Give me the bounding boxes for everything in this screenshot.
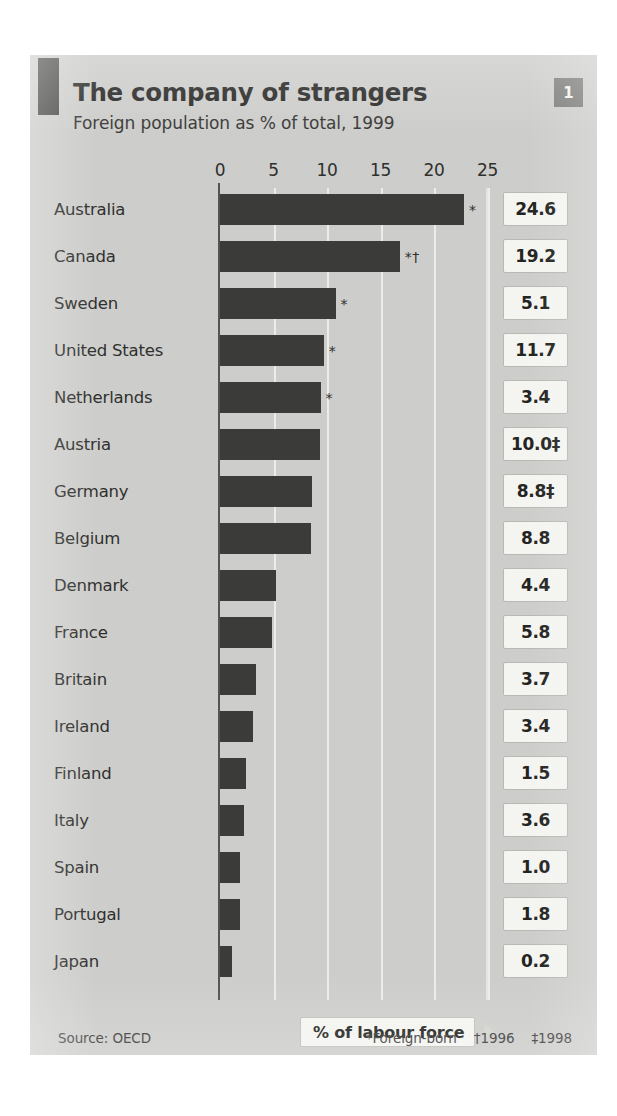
x-tick-label: 15 <box>370 160 391 180</box>
value-box: 5.8 <box>503 615 568 649</box>
category-label: Portugal <box>54 891 212 938</box>
value-box: 8.8 <box>503 521 568 555</box>
category-label: Australia <box>54 186 212 233</box>
category-label: Austria <box>54 421 212 468</box>
bar <box>220 664 256 695</box>
bar-row: Denmark4.4 <box>30 562 597 609</box>
category-label: Belgium <box>54 515 212 562</box>
footnote: †1996 <box>474 1030 515 1046</box>
bar-row: Netherlands*3.4 <box>30 374 597 421</box>
x-axis-tick-labels: 0510152025 <box>30 160 597 186</box>
bar-row: Ireland3.4 <box>30 703 597 750</box>
chart-subtitle: Foreign population as % of total, 1999 <box>73 113 394 133</box>
category-label: Canada <box>54 233 212 280</box>
bar-footnote-marker: * <box>469 186 477 233</box>
x-tick-label: 20 <box>423 160 444 180</box>
bar <box>220 758 246 789</box>
bar <box>220 899 240 930</box>
x-tick-label: 5 <box>268 160 279 180</box>
x-tick-label: 0 <box>215 160 226 180</box>
bar-row: Britain3.7 <box>30 656 597 703</box>
bar <box>220 476 312 507</box>
source-note: Source: OECD <box>58 1030 151 1046</box>
category-label: Japan <box>54 938 212 985</box>
bar-row: Finland1.5 <box>30 750 597 797</box>
category-label: Finland <box>54 750 212 797</box>
category-label: Britain <box>54 656 212 703</box>
bar <box>220 617 272 648</box>
category-label: Netherlands <box>54 374 212 421</box>
bar <box>220 711 253 742</box>
bar <box>220 194 464 225</box>
value-box: 5.1 <box>503 286 568 320</box>
value-box: 3.4 <box>503 380 568 414</box>
value-box: 1.5 <box>503 756 568 790</box>
value-box: 24.6 <box>503 192 568 226</box>
bar-footnote-marker: * <box>341 280 349 327</box>
bar-row: Germany8.8‡ <box>30 468 597 515</box>
footnotes: *Foreign-born†1996‡1998 <box>366 1030 572 1046</box>
category-label: Ireland <box>54 703 212 750</box>
bar <box>220 805 244 836</box>
x-tick-label: 10 <box>316 160 337 180</box>
bar <box>220 382 321 413</box>
category-label: Denmark <box>54 562 212 609</box>
value-box: 8.8‡ <box>503 474 568 508</box>
value-box: 1.0 <box>503 850 568 884</box>
bar <box>220 288 336 319</box>
category-label: United States <box>54 327 212 374</box>
footnote: ‡1998 <box>531 1030 572 1046</box>
bar-row: Australia*24.6 <box>30 186 597 233</box>
value-box: 1.8 <box>503 897 568 931</box>
value-box: 3.4 <box>503 709 568 743</box>
value-box: 4.4 <box>503 568 568 602</box>
value-box: 11.7 <box>503 333 568 367</box>
bar <box>220 523 311 554</box>
bar-row: Sweden*5.1 <box>30 280 597 327</box>
category-label: Italy <box>54 797 212 844</box>
chart-title: The company of strangers <box>73 78 427 107</box>
bar-row: Portugal1.8 <box>30 891 597 938</box>
bar-row: Spain1.0 <box>30 844 597 891</box>
plot-area: 0510152025 Australia*24.6Canada*†19.2Swe… <box>30 160 597 1015</box>
figure-number-badge: 1 <box>554 78 583 107</box>
x-tick-label: 25 <box>477 160 498 180</box>
value-box: 10.0‡ <box>503 427 568 461</box>
corner-mark <box>38 58 59 115</box>
bar <box>220 852 240 883</box>
bar-footnote-marker: * <box>326 374 334 421</box>
chart-figure: 1 The company of strangers Foreign popul… <box>30 55 597 1055</box>
bar-row: United States*11.7 <box>30 327 597 374</box>
bar-row: Canada*†19.2 <box>30 233 597 280</box>
bar-row: Austria10.0‡ <box>30 421 597 468</box>
value-box: 0.2 <box>503 944 568 978</box>
bar-row: Japan0.2 <box>30 938 597 985</box>
value-box: 3.6 <box>503 803 568 837</box>
bar <box>220 946 232 977</box>
bar-row: Italy3.6 <box>30 797 597 844</box>
footnote: *Foreign-born <box>366 1030 457 1046</box>
bar <box>220 570 276 601</box>
bar-footnote-marker: *† <box>405 233 420 280</box>
category-label: Spain <box>54 844 212 891</box>
category-label: Sweden <box>54 280 212 327</box>
category-label: Germany <box>54 468 212 515</box>
value-box: 19.2 <box>503 239 568 273</box>
bar-row: France5.8 <box>30 609 597 656</box>
bar-footnote-marker: * <box>329 327 337 374</box>
value-box: 3.7 <box>503 662 568 696</box>
bar <box>220 429 320 460</box>
bar <box>220 335 324 366</box>
bar-row: Belgium8.8 <box>30 515 597 562</box>
bar <box>220 241 400 272</box>
category-label: France <box>54 609 212 656</box>
